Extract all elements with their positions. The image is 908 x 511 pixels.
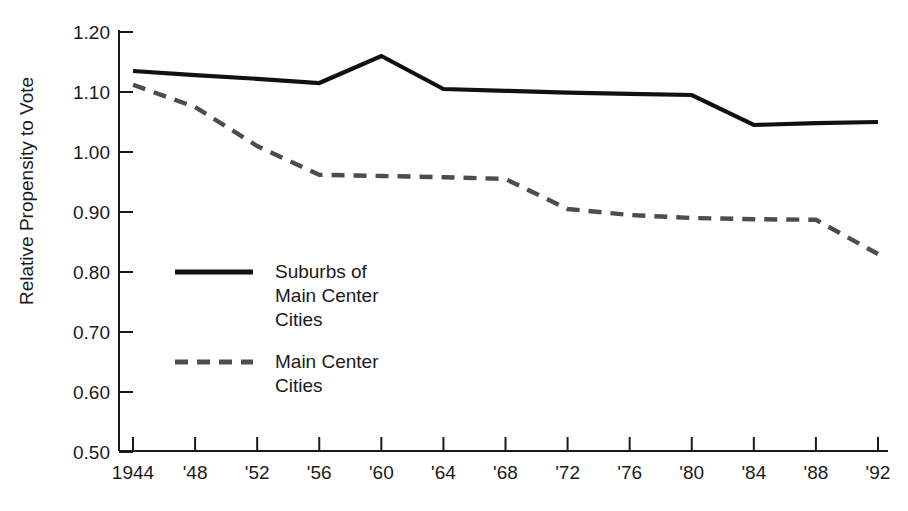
x-tick-label: '52 [245,462,270,483]
x-tick-label: 1944 [112,462,155,483]
x-axis-ticks [133,437,878,451]
legend-label-main-center-line-1: Main Center [275,351,379,372]
y-tick-label: 1.00 [73,142,110,163]
x-tick-label: '88 [804,462,829,483]
y-axis-title: Relative Propensity to Vote [16,77,37,305]
x-tick-label: '56 [307,462,332,483]
line-chart-plot: Relative Propensity to Vote 1.201.101.00… [0,0,908,511]
y-axis-ticks [119,32,133,452]
legend-label-main-center-line-2: Cities [275,375,323,396]
legend-label-suburbs-line-2: Main Center [275,285,379,306]
y-tick-label: 0.50 [73,442,110,463]
y-tick-label: 0.70 [73,322,110,343]
x-tick-label: '72 [555,462,580,483]
x-tick-label: '68 [493,462,518,483]
y-axis-tick-labels: 1.201.101.000.900.800.700.600.50 [73,22,110,463]
x-tick-label: '48 [183,462,208,483]
x-tick-label: '64 [431,462,456,483]
x-axis-tick-labels: 1944'48'52'56'60'64'68'72'76'80'84'88'92 [112,462,891,483]
series-line-suburbs-of-main-center-cities [133,56,878,125]
x-tick-label: '80 [679,462,704,483]
y-tick-label: 1.20 [73,22,110,43]
x-tick-label: '60 [369,462,394,483]
y-tick-label: 0.80 [73,262,110,283]
x-tick-label: '84 [741,462,766,483]
x-tick-label: '76 [617,462,642,483]
legend-label-suburbs-line-3: Cities [275,309,323,330]
x-tick-label: '92 [866,462,891,483]
legend-label-suburbs-line-1: Suburbs of [275,261,368,282]
chart-legend: Suburbs of Main Center Cities Main Cente… [175,261,379,396]
y-tick-label: 1.10 [73,82,110,103]
y-tick-label: 0.60 [73,382,110,403]
series-line-main-center-cities [133,85,878,254]
chart-container: Relative Propensity to Vote 1.201.101.00… [0,0,908,511]
y-tick-label: 0.90 [73,202,110,223]
